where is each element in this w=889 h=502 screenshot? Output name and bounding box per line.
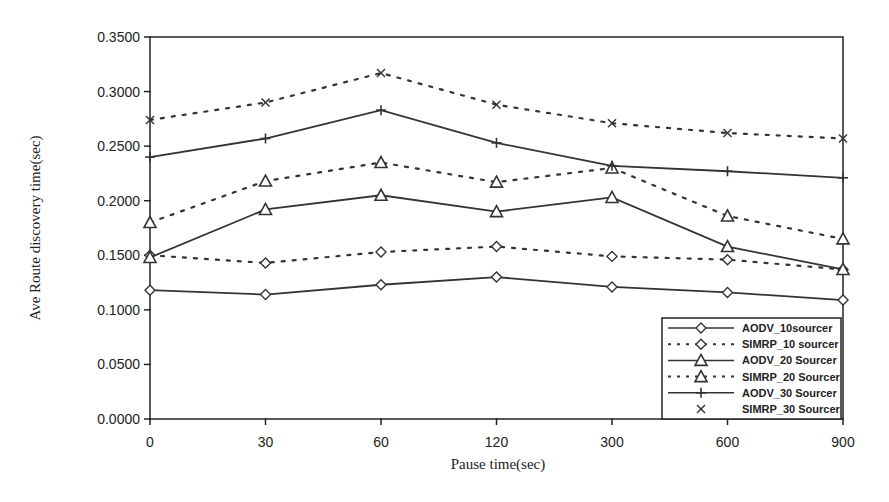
x-tick-label: 60 (373, 434, 389, 450)
x-axis-title: Pause time(sec) (451, 456, 546, 473)
diamond-marker (376, 280, 386, 290)
x-tick-label: 900 (831, 434, 855, 450)
diamond-marker (145, 285, 155, 295)
series-simrp-10-sourcer (145, 242, 848, 275)
triangle-marker (260, 175, 272, 186)
diamond-marker (261, 258, 271, 268)
diamond-marker (607, 251, 617, 261)
legend: AODV_10sourcerSIMRP_10 sourcerAODV_20 So… (662, 318, 841, 419)
legend-label: SIMRP_20 Sourcer (742, 371, 841, 383)
series-aodv-10sourcer (145, 272, 848, 305)
y-tick-label: 0.2000 (97, 193, 140, 209)
triangle-marker (375, 189, 387, 200)
diamond-marker (723, 255, 733, 265)
y-tick-label: 0.0500 (97, 356, 140, 372)
series-layer (144, 69, 849, 305)
legend-label: AODV_10sourcer (742, 322, 833, 334)
legend-label: SIMRP_10 sourcer (742, 338, 839, 350)
x-axis: 03060120300600900 (146, 418, 855, 450)
diamond-marker (607, 282, 617, 292)
triangle-marker (375, 157, 387, 168)
series-aodv-30-sourcer (145, 105, 848, 183)
series-simrp-30-sourcer (146, 69, 847, 142)
legend-label: AODV_20 Sourcer (742, 354, 837, 366)
x-tick-label: 120 (485, 434, 509, 450)
triangle-marker (837, 233, 849, 244)
triangle-marker (144, 217, 156, 228)
diamond-marker (492, 242, 502, 252)
diamond-marker (261, 290, 271, 300)
x-tick-label: 300 (600, 434, 624, 450)
y-tick-label: 0.0000 (97, 411, 140, 427)
y-tick-label: 0.1000 (97, 302, 140, 318)
y-tick-label: 0.3000 (97, 84, 140, 100)
y-tick-label: 0.1500 (97, 247, 140, 263)
diamond-marker (376, 247, 386, 257)
legend-label: AODV_30 Sourcer (742, 387, 837, 399)
legend-label: SIMRP_30 Sourcer (742, 403, 841, 415)
series-line (150, 73, 843, 138)
x-tick-label: 30 (258, 434, 274, 450)
line-chart: 0.00000.05000.10000.15000.20000.25000.30… (0, 0, 889, 502)
triangle-marker (722, 241, 734, 252)
y-tick-label: 0.3500 (97, 29, 140, 45)
diamond-marker (838, 295, 848, 305)
y-axis-title: Ave Route discovery time(sec) (27, 135, 44, 320)
diamond-marker (723, 287, 733, 297)
x-tick-label: 0 (146, 434, 154, 450)
diamond-marker (492, 272, 502, 282)
triangle-marker (722, 210, 734, 221)
series-line (150, 163, 843, 239)
triangle-marker (606, 191, 618, 202)
x-tick-label: 600 (716, 434, 740, 450)
series-simrp-20-sourcer (144, 157, 849, 244)
y-tick-label: 0.2500 (97, 138, 140, 154)
